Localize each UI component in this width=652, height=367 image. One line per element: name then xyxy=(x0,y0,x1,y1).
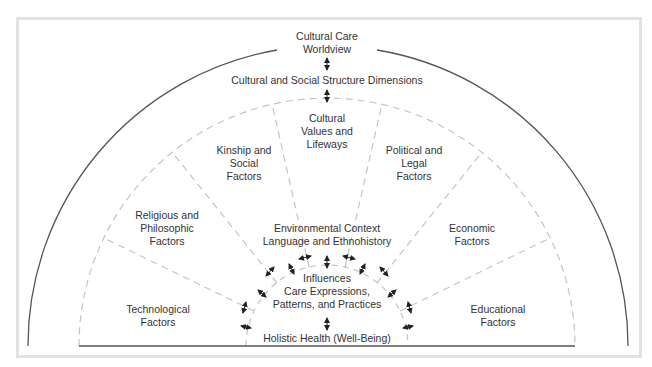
holistic-health-label: Holistic Health (Well-Being) xyxy=(263,332,391,345)
sector-educational: Educational Factors xyxy=(471,303,526,329)
influences-label: Influences xyxy=(303,272,351,285)
environmental-context-label: Environmental Context Language and Ethno… xyxy=(263,222,391,248)
care-expressions-label: Care Expressions, Patterns, and Practice… xyxy=(273,285,382,311)
sector-kinship: Kinship and Social Factors xyxy=(217,144,272,183)
sector-economic: Economic Factors xyxy=(449,222,495,248)
worldview-label: Cultural Care Worldview xyxy=(296,30,358,56)
sector-technological: Technological Factors xyxy=(126,303,190,329)
sector-religious: Religious and Philosophic Factors xyxy=(135,209,199,248)
dimensions-label: Cultural and Social Structure Dimensions xyxy=(231,74,422,87)
sector-cultural-values: Cultural Values and Lifeways xyxy=(301,112,353,151)
sector-political: Political and Legal Factors xyxy=(386,144,443,183)
